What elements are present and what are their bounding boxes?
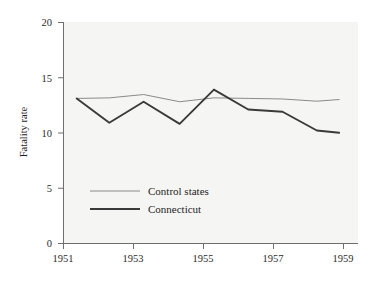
y-tick-label-10: 10 — [42, 128, 53, 139]
line-chart: 20 15 10 5 0 1951 1953 1955 1957 1959 Fa… — [0, 0, 379, 282]
y-tick-label-20: 20 — [42, 17, 53, 28]
legend-label-control-states: Control states — [148, 185, 209, 197]
chart-figure: 20 15 10 5 0 1951 1953 1955 1957 1959 Fa… — [0, 0, 379, 282]
x-tick-label-1951: 1951 — [53, 253, 74, 264]
y-axis-title: Fatality rate — [18, 106, 29, 157]
y-tick-label-15: 15 — [42, 73, 53, 84]
y-tick-label-0: 0 — [47, 238, 52, 249]
x-tick-label-1959: 1959 — [333, 253, 354, 264]
x-axis-ticks — [64, 244, 344, 250]
y-axis-ticks — [58, 23, 63, 244]
x-tick-label-1953: 1953 — [123, 253, 144, 264]
y-tick-label-5: 5 — [47, 183, 52, 194]
x-tick-label-1955: 1955 — [193, 253, 214, 264]
legend-label-connecticut: Connecticut — [148, 203, 201, 215]
x-tick-label-1957: 1957 — [263, 253, 284, 264]
